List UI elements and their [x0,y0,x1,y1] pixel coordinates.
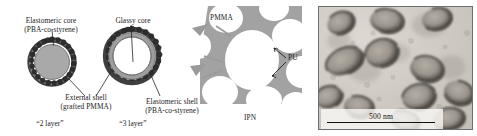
tem-scalebar: 500 nm [327,112,435,123]
two-layer-core [35,45,70,80]
tem-panel: 500 nm [312,0,477,136]
three-layer-caption: “3 layer” [100,120,166,129]
tem-image: 500 nm [318,6,473,130]
three-layer-particle [96,25,162,96]
two-layer-caption: “2 layer” [14,120,86,129]
scalebar-label: 500 nm [327,112,435,121]
ipn-pu-label: PU [288,54,298,63]
figure-root: Elastomeric core (PBA-co-styrene) Glassy… [0,0,477,136]
external-shell-label: External shell (grafted PMMA) [46,94,126,111]
core-shell-schematic-panel: Elastomeric core (PBA-co-styrene) Glassy… [0,0,196,136]
two-layer-core-label: Elastomeric core (PBA-co-styrene) [8,17,94,34]
scalebar-line [327,122,435,123]
leader-elastomeric-shell [150,73,160,96]
ipn-schematic-panel: PMMA PU IPN [190,0,312,136]
ipn-pmma-label: PMMA [210,14,233,23]
two-layer-particle [29,30,85,96]
three-layer-core-label: Glassy core [102,17,164,26]
ipn-caption: IPN [220,114,280,123]
